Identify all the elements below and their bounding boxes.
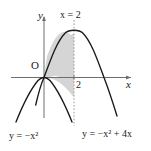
curve-upper-label: y = −x² + 4x xyxy=(82,129,132,139)
y-axis-label: y xyxy=(38,10,43,21)
curve-lower-label: y = −x² xyxy=(9,131,38,141)
vertical-line-label: x = 2 xyxy=(60,10,81,20)
x-tick-label-2: 2 xyxy=(76,80,81,90)
parabola-region-figure: y x O 2 x = 2 y = −x² y = −x² + 4x xyxy=(0,0,151,151)
origin-label: O xyxy=(31,60,39,71)
x-axis-label: x xyxy=(126,79,131,90)
